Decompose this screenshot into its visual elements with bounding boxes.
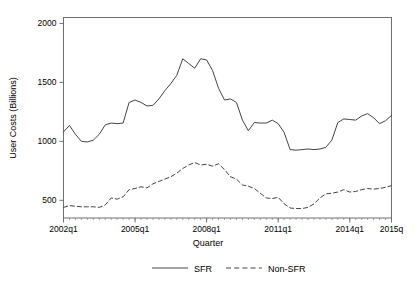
x-axis-title: Quarter [193,238,224,248]
x-tick-label: 2011q1 [264,224,292,234]
y-tick-label: 500 [42,195,56,205]
legend-label-non-sfr: Non-SFR [268,264,306,274]
y-axis-title: User Costs (Billions) [8,77,18,159]
legend-label-sfr: SFR [194,264,213,274]
y-tick-label: 1500 [38,77,57,87]
y-tick-label: 1000 [38,136,57,146]
chart-figure: 500100015002000 2002q12005q12008q12011q1… [0,0,420,285]
y-tick-label: 2000 [38,18,57,28]
user-costs-line-chart: 500100015002000 2002q12005q12008q12011q1… [0,0,420,285]
x-tick-label: 2015q [380,224,404,234]
x-tick-label: 2008q1 [192,224,221,234]
x-tick-label: 2014q1 [336,224,365,234]
x-tick-label: 2005q1 [121,224,150,234]
x-tick-label: 2002q1 [49,224,78,234]
